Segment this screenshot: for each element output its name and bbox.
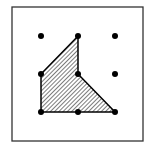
grid-dot bbox=[75, 71, 81, 77]
grid-dot bbox=[38, 71, 44, 77]
grid-dot bbox=[112, 109, 118, 115]
geoboard-diagram bbox=[0, 0, 153, 149]
grid-dot bbox=[112, 33, 118, 39]
grid-dot bbox=[38, 109, 44, 115]
grid-dot bbox=[38, 33, 44, 39]
grid-dot bbox=[75, 109, 81, 115]
grid-dot bbox=[112, 71, 118, 77]
grid-dot bbox=[75, 33, 81, 39]
